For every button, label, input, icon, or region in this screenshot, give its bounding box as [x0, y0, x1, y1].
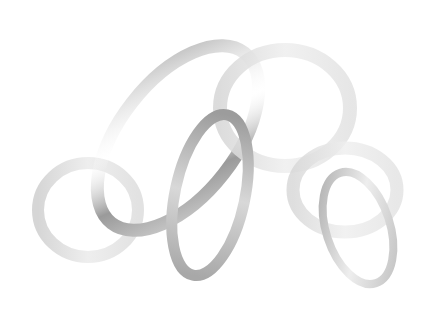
abstract-ribbon-artwork	[0, 0, 427, 319]
ribbon-lower-right-ring	[293, 148, 397, 232]
ribbon-loops-graphic	[0, 0, 427, 319]
ribbon-left-ring	[38, 163, 138, 257]
